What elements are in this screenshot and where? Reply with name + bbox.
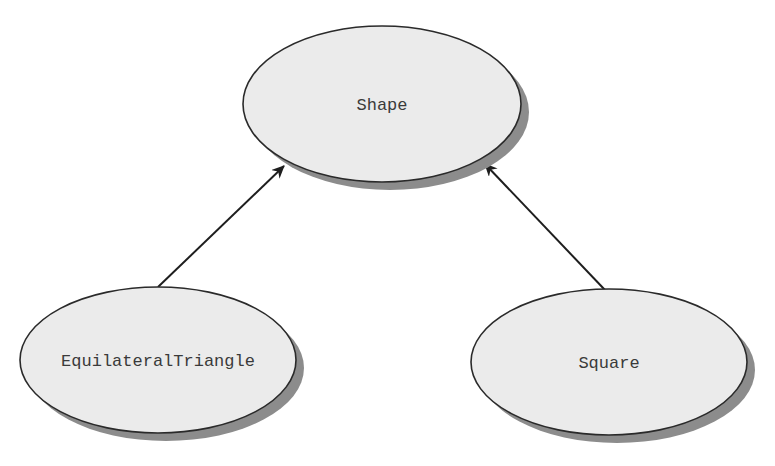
edge-square-to-shape [485,164,605,290]
node-label-shape: Shape [356,96,407,115]
node-label-square: Square [578,354,639,373]
node-shape[interactable]: Shape [243,26,529,190]
node-square[interactable]: Square [471,289,755,443]
node-equilateral-triangle[interactable]: EquilateralTriangle [20,287,304,441]
inheritance-diagram: Shape EquilateralTriangle Square [0,0,775,466]
node-label-equilateral-triangle: EquilateralTriangle [61,352,255,371]
edge-equilateral-triangle-to-shape [158,166,284,287]
